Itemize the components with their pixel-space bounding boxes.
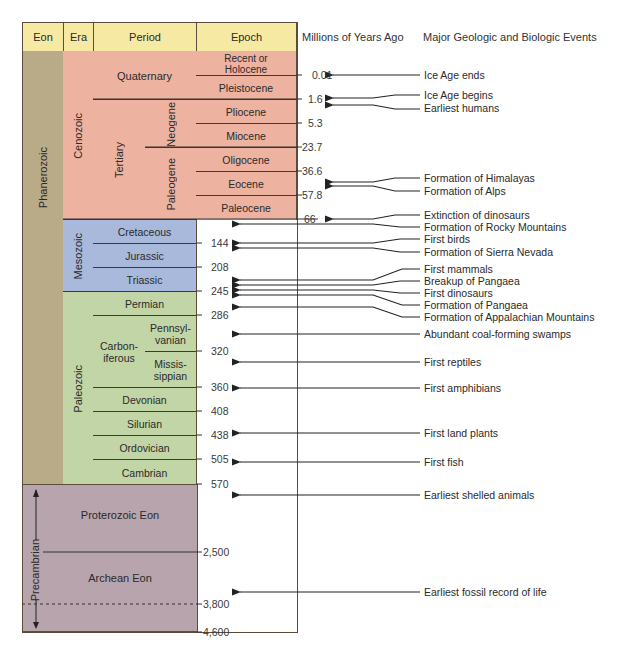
event-label: First land plants: [424, 427, 498, 439]
age-label: 505: [211, 453, 229, 465]
age-label: 36.6: [302, 165, 322, 177]
age-label: 4,600: [203, 626, 229, 638]
age-label: 360: [211, 381, 229, 393]
event-label: Earliest shelled animals: [424, 489, 534, 501]
age-label: 0.01: [312, 69, 332, 81]
age-label: 245: [211, 285, 229, 297]
event-label: Formation of Himalayas: [424, 172, 535, 184]
event-label: Extinction of dinosaurs: [424, 209, 530, 221]
age-label: 408: [211, 405, 229, 417]
age-label: 2,500: [203, 546, 229, 558]
age-label: 208: [211, 261, 229, 273]
event-label: Ice Age ends: [424, 69, 485, 81]
event-label: Formation of Pangaea: [424, 299, 528, 311]
age-label: 144: [211, 237, 229, 249]
age-label: 57.8: [302, 189, 322, 201]
event-label: First reptiles: [424, 356, 481, 368]
age-label: 66: [304, 213, 316, 225]
event-label: First dinosaurs: [424, 287, 493, 299]
age-label: 286: [211, 309, 229, 321]
event-label: First fish: [424, 456, 464, 468]
event-label: Formation of Sierra Nevada: [424, 246, 553, 258]
age-label: 570: [211, 478, 229, 490]
event-label: Formation of Rocky Mountains: [424, 221, 566, 233]
age-label: 23.7: [302, 141, 322, 153]
event-label: Earliest fossil record of life: [424, 586, 547, 598]
event-label: Ice Age begins: [424, 89, 493, 101]
age-label: 438: [211, 429, 229, 441]
event-label: First birds: [424, 233, 470, 245]
event-label: First amphibians: [424, 382, 501, 394]
event-label: Abundant coal-forming swamps: [424, 328, 571, 340]
event-label: Formation of Appalachian Mountains: [424, 311, 594, 323]
age-label: 1.6: [308, 93, 323, 105]
event-label: Earliest humans: [424, 102, 499, 114]
event-label: Breakup of Pangaea: [424, 275, 520, 287]
age-label: 320: [211, 345, 229, 357]
age-label: 5.3: [308, 117, 323, 129]
event-label: Formation of Alps: [424, 185, 506, 197]
event-label: First mammals: [424, 263, 493, 275]
age-label: 3,800: [203, 598, 229, 610]
